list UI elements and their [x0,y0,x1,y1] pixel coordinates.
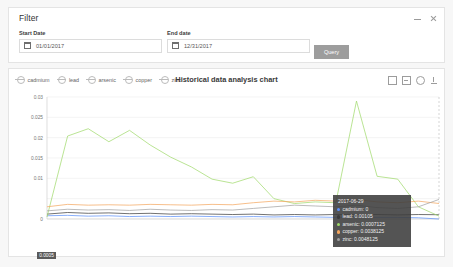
legend-item-copper[interactable]: copper [125,76,152,84]
y-axis-tick: 0.015 [17,156,43,161]
legend-marker-icon [58,76,66,84]
start-date-input[interactable]: 01/01/2017 [19,39,162,53]
zoom-rect-icon[interactable] [388,76,397,85]
calendar-icon [172,42,179,49]
restore-icon[interactable] [416,76,425,85]
legend-item-zinc[interactable]: zinc [161,76,181,84]
legend-label: zinc [171,77,181,83]
legend-marker-icon [125,76,133,84]
legend-label: cadmium [28,77,50,83]
y-axis-tick: 0.03 [17,95,43,100]
legend-label: copper [135,77,151,83]
chart-svg [9,87,444,237]
y-axis-tick: 0.02 [17,135,43,140]
legend-label: lead [69,77,79,83]
minimize-icon[interactable] [413,14,422,23]
start-date-value: 01/01/2017 [36,43,64,49]
end-date-input[interactable]: 12/31/2017 [167,39,310,53]
start-date-label: Start Date [19,30,162,36]
calendar-icon [24,42,31,49]
filter-panel-title: Filter [19,13,39,23]
download-icon[interactable] [430,77,437,84]
legend-marker-icon [88,76,96,84]
zoom-back-icon[interactable] [402,76,411,85]
app-root: Filter Start Date 01/01/2017 End date 12… [0,0,453,267]
end-date-value: 12/31/2017 [184,43,212,49]
y-axis-tick: 0.01 [17,176,43,181]
y-axis-tick: 0 [17,217,43,222]
end-date-label: End date [167,30,310,36]
y-axis-pointer-label: 0.0005 [37,252,56,259]
chart-plot-area[interactable] [9,87,444,237]
legend-item-lead[interactable]: lead [58,76,79,84]
start-date-field: Start Date 01/01/2017 [19,30,162,53]
filter-panel: Filter Start Date 01/01/2017 End date 12… [8,7,445,63]
query-button[interactable]: Query [314,45,349,59]
close-icon[interactable] [429,14,438,23]
legend-marker-icon [17,76,25,84]
legend-marker-icon [161,76,169,84]
filter-panel-controls [413,14,438,23]
legend-label: arsenic [99,77,116,83]
legend-item-arsenic[interactable]: arsenic [88,76,116,84]
chart-panel: cadmiumleadarseniccopperzinc Historical … [8,68,445,257]
legend-item-cadmium[interactable]: cadmium [17,76,49,84]
end-date-field: End date 12/31/2017 [167,30,310,53]
y-axis-tick: 0.025 [17,115,43,120]
tooltip-series-dot [337,238,340,241]
chart-toolbox [388,76,437,85]
chart-legend: cadmiumleadarseniccopperzinc [17,76,181,84]
